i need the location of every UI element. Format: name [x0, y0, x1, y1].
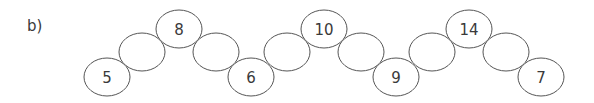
oval-3 — [193, 33, 239, 71]
oval-6: 10 — [301, 10, 347, 48]
oval-value: 14 — [459, 21, 478, 39]
oval-9 — [409, 33, 455, 71]
number-chain-diagram: 5 8 6 10 9 14 7 — [0, 0, 594, 103]
oval-value: 6 — [246, 69, 256, 87]
oval-10: 14 — [446, 10, 492, 48]
oval-7 — [338, 33, 384, 71]
oval-11 — [483, 33, 529, 71]
oval-0: 5 — [84, 58, 130, 96]
oval-5 — [264, 33, 310, 71]
oval-4: 6 — [228, 58, 274, 96]
oval-value: 10 — [314, 21, 333, 39]
oval-8: 9 — [373, 58, 419, 96]
oval-value: 9 — [391, 69, 401, 87]
oval-value: 5 — [102, 69, 112, 87]
oval-value: 8 — [174, 21, 184, 39]
oval-value: 7 — [536, 69, 546, 87]
oval-12: 7 — [518, 58, 564, 96]
oval-1 — [119, 33, 165, 71]
oval-2: 8 — [156, 10, 202, 48]
